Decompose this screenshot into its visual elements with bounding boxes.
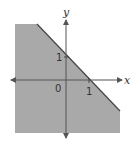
graph: x y 0 1 1 [0,0,133,146]
x-axis-left-arrow-icon [10,77,16,83]
y-axis-label: y [62,6,70,19]
y-axis-down-arrow-icon [63,133,69,139]
y-intercept-label: 1 [56,52,62,63]
shaded-region [15,24,120,133]
x-axis-right-arrow-icon [117,77,123,83]
x-intercept-label: 1 [86,86,92,97]
x-axis-label: x [124,74,131,87]
origin-label: 0 [55,83,61,94]
y-axis-up-arrow-icon [63,19,69,25]
